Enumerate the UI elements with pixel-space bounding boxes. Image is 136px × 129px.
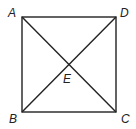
vertex-label-a: A: [7, 6, 16, 20]
square-diagram: A D B C E: [0, 0, 136, 129]
vertex-label-c: C: [121, 112, 130, 126]
vertex-label-d: D: [120, 6, 129, 20]
intersection-label-e: E: [63, 72, 72, 86]
vertex-label-b: B: [9, 112, 17, 126]
